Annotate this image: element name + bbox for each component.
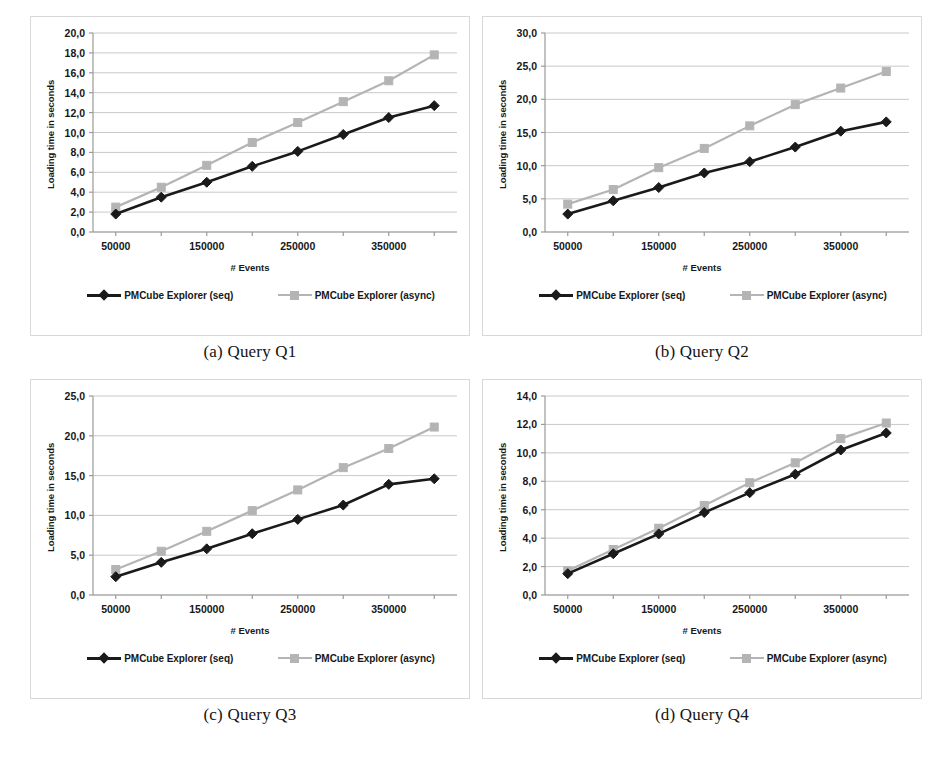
legend-entry-async[interactable]: PMCube Explorer (async) xyxy=(278,652,435,664)
series-seq xyxy=(563,428,892,579)
chart-legend: PMCube Explorer (seq)PMCube Explorer (as… xyxy=(517,286,909,304)
chart-area-q3: Loading time in seconds0,05,010,015,020,… xyxy=(31,380,469,698)
chart-area-q1: Loading time in seconds0,02,04,06,08,010… xyxy=(31,17,469,335)
axes xyxy=(541,396,909,599)
subfigure-q2: Loading time in seconds0,05,010,015,020,… xyxy=(482,16,922,356)
chart-panel-q4: Loading time in seconds0,02,04,06,08,010… xyxy=(482,379,922,699)
series-async xyxy=(112,51,439,211)
caption-q4: (d) Query Q4 xyxy=(482,705,922,725)
figure-grid: Loading time in seconds0,02,04,06,08,010… xyxy=(0,0,944,761)
square-marker-icon xyxy=(278,289,312,301)
caption-q2: (b) Query Q2 xyxy=(482,342,922,362)
legend-label: PMCube Explorer (seq) xyxy=(124,290,233,301)
legend-entry-seq[interactable]: PMCube Explorer (seq) xyxy=(539,652,685,664)
legend-label: PMCube Explorer (async) xyxy=(767,653,887,664)
legend-entry-async[interactable]: PMCube Explorer (async) xyxy=(278,289,435,301)
chart-area-q4: Loading time in seconds0,02,04,06,08,010… xyxy=(483,380,921,698)
chart-area-q2: Loading time in seconds0,05,010,015,020,… xyxy=(483,17,921,335)
legend-entry-seq[interactable]: PMCube Explorer (seq) xyxy=(87,289,233,301)
series-async xyxy=(564,67,891,208)
series-seq xyxy=(111,474,440,582)
legend-entry-seq[interactable]: PMCube Explorer (seq) xyxy=(539,289,685,301)
gridlines xyxy=(93,396,457,595)
diamond-marker-icon xyxy=(539,652,573,664)
square-marker-icon xyxy=(730,652,764,664)
square-marker-icon xyxy=(730,289,764,301)
legend-label: PMCube Explorer (seq) xyxy=(576,653,685,664)
square-marker-icon xyxy=(278,652,312,664)
legend-label: PMCube Explorer (async) xyxy=(767,290,887,301)
chart-panel-q1: Loading time in seconds0,02,04,06,08,010… xyxy=(30,16,470,336)
caption-q1: (a) Query Q1 xyxy=(30,342,470,362)
diamond-marker-icon xyxy=(87,652,121,664)
diamond-marker-icon xyxy=(539,289,573,301)
legend-entry-async[interactable]: PMCube Explorer (async) xyxy=(730,289,887,301)
legend-label: PMCube Explorer (async) xyxy=(315,290,435,301)
series-seq xyxy=(111,101,440,219)
caption-q3: (c) Query Q3 xyxy=(30,705,470,725)
legend-label: PMCube Explorer (seq) xyxy=(124,653,233,664)
chart-legend: PMCube Explorer (seq)PMCube Explorer (as… xyxy=(65,286,457,304)
chart-panel-q3: Loading time in seconds0,05,010,015,020,… xyxy=(30,379,470,699)
chart-legend: PMCube Explorer (seq)PMCube Explorer (as… xyxy=(517,649,909,667)
subfigure-q1: Loading time in seconds0,02,04,06,08,010… xyxy=(30,16,470,356)
gridlines xyxy=(545,396,909,595)
legend-entry-seq[interactable]: PMCube Explorer (seq) xyxy=(87,652,233,664)
chart-panel-q2: Loading time in seconds0,05,010,015,020,… xyxy=(482,16,922,336)
diamond-marker-icon xyxy=(87,289,121,301)
chart-legend: PMCube Explorer (seq)PMCube Explorer (as… xyxy=(65,649,457,667)
gridlines xyxy=(545,33,909,232)
legend-label: PMCube Explorer (seq) xyxy=(576,290,685,301)
subfigure-q4: Loading time in seconds0,02,04,06,08,010… xyxy=(482,379,922,719)
subfigure-q3: Loading time in seconds0,05,010,015,020,… xyxy=(30,379,470,719)
legend-label: PMCube Explorer (async) xyxy=(315,653,435,664)
legend-entry-async[interactable]: PMCube Explorer (async) xyxy=(730,652,887,664)
series-async xyxy=(112,423,439,573)
